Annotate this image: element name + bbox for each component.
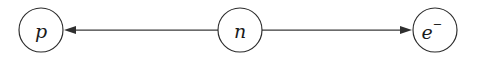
node-electron-label-text: e	[422, 21, 433, 43]
edge-neutron-to-electron	[262, 26, 412, 34]
arrowhead-left-icon	[64, 26, 76, 34]
diagram-canvas: p n e−	[0, 0, 477, 57]
node-neutron-label-text: n	[234, 20, 246, 42]
node-proton-label: p	[35, 20, 47, 42]
node-neutron[interactable]: n	[218, 8, 262, 52]
node-electron[interactable]: e−	[413, 8, 457, 52]
arrowhead-right-icon	[400, 26, 412, 34]
node-proton[interactable]: p	[19, 8, 63, 52]
decay-diagram: p n e−	[0, 0, 477, 57]
edge-neutron-to-proton	[64, 26, 218, 34]
node-neutron-label: n	[234, 20, 246, 42]
node-electron-label-superscript: −	[433, 17, 443, 31]
node-proton-label-text: p	[35, 20, 47, 42]
